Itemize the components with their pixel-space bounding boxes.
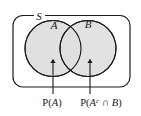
label-p-a: P(A)	[42, 97, 62, 109]
p-acb-intersect: ∩	[99, 97, 112, 108]
label-circle-b: B	[85, 18, 92, 30]
venn-diagram-figure: S A B P(A) P(Ac ∩ B)	[0, 0, 141, 116]
p-acb-fn-close: )	[118, 97, 122, 109]
label-circle-a: A	[50, 19, 58, 31]
label-p-ac-int-b: P(Ac ∩ B)	[80, 97, 122, 109]
p-a-fn-close: )	[58, 97, 62, 109]
venn-diagram-canvas: S A B P(A) P(Ac ∩ B)	[0, 0, 141, 116]
label-sample-space: S	[36, 10, 42, 22]
